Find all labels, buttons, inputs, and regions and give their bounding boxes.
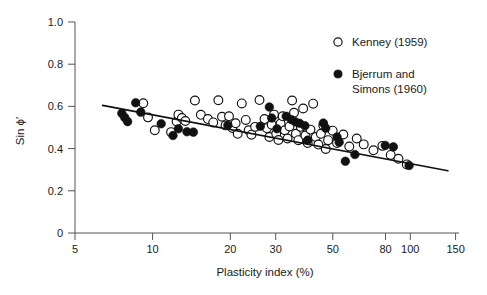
x-tick-label-10: 10 (146, 243, 158, 255)
data-point-kenney (309, 99, 318, 108)
legend-label-bjerrum-line1: Bjerrum and (352, 68, 415, 80)
legend-label-bjerrum-line2: Simons (1960) (352, 83, 427, 95)
data-point-bjerrum (123, 117, 132, 126)
data-point-kenney (369, 146, 378, 155)
data-point-kenney (324, 136, 333, 145)
legend-open-circle-icon (334, 38, 342, 46)
y-tick-label-1-0: 1.0 (48, 16, 63, 28)
data-point-bjerrum (381, 141, 390, 150)
data-point-bjerrum (131, 99, 140, 108)
x-axis-ticks: 5 10 20 30 50 80 100 150 (72, 233, 465, 255)
y-tick-label-0-2: 0.2 (48, 185, 63, 197)
data-point-kenney (225, 112, 234, 121)
y-tick-label-0-4: 0.4 (48, 143, 63, 155)
x-tick-label-150: 150 (446, 243, 464, 255)
chart-legend: Kenney (1959) Bjerrum and Simons (1960) (334, 36, 428, 95)
data-point-kenney (214, 96, 223, 105)
data-point-kenney (231, 119, 240, 128)
y-tick-label-0-8: 0.8 (48, 58, 63, 70)
data-point-bjerrum (157, 119, 166, 128)
x-tick-label-100: 100 (401, 243, 419, 255)
data-point-kenney (255, 96, 264, 105)
data-point-bjerrum (301, 122, 310, 131)
x-axis-title: Plasticity index (%) (216, 266, 313, 278)
data-point-bjerrum (174, 124, 183, 133)
x-tick-label-5: 5 (72, 243, 78, 255)
y-axis-ticks: 1.0 0.8 0.6 0.4 0.2 0 (48, 16, 75, 239)
data-point-kenney (345, 142, 354, 151)
data-point-kenney (299, 104, 308, 113)
x-tick-label-30: 30 (270, 243, 282, 255)
data-point-bjerrum (341, 157, 350, 166)
data-point-kenney (191, 96, 200, 105)
data-point-bjerrum (335, 138, 344, 147)
data-point-bjerrum (265, 103, 274, 112)
x-tick-label-20: 20 (224, 243, 236, 255)
x-tick-label-50: 50 (327, 243, 339, 255)
data-point-bjerrum (389, 143, 398, 152)
y-tick-label-0: 0 (57, 227, 63, 239)
y-tick-label-0-6: 0.6 (48, 100, 63, 112)
scatter-plot: 1.0 0.8 0.6 0.4 0.2 0 5 10 20 30 50 (0, 0, 487, 295)
data-point-bjerrum (273, 124, 282, 133)
data-point-kenney (241, 116, 250, 125)
legend-filled-circle-icon (334, 70, 342, 78)
data-point-kenney (237, 99, 246, 108)
data-point-kenney (288, 96, 297, 105)
data-point-kenney (359, 140, 368, 149)
y-axis-title: Sin ϕ′ (14, 117, 26, 145)
x-tick-label-80: 80 (379, 243, 391, 255)
data-point-bjerrum (189, 128, 198, 137)
data-point-kenney (150, 126, 159, 135)
data-point-bjerrum (256, 122, 265, 131)
chart-figure: 1.0 0.8 0.6 0.4 0.2 0 5 10 20 30 50 (0, 0, 487, 295)
data-point-bjerrum (321, 124, 330, 133)
legend-label-kenney: Kenney (1959) (352, 36, 428, 48)
data-point-bjerrum (267, 114, 276, 123)
